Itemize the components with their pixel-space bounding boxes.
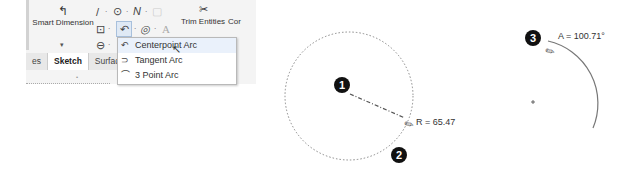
- preview-circle: [285, 32, 413, 160]
- radius-dimension-label: R = 65.47: [416, 117, 455, 127]
- step-marker-2: 2: [391, 147, 407, 163]
- step-marker-1: 1: [334, 77, 350, 93]
- angle-dimension-label: A = 100.71°: [558, 31, 605, 41]
- radius-line: [350, 94, 405, 118]
- sketch-canvas[interactable]: [0, 0, 632, 176]
- step-marker-3: 3: [525, 30, 541, 46]
